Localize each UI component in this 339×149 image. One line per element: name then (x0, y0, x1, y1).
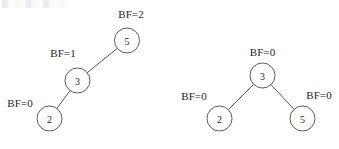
balance-factor-label: BF=0 (250, 47, 276, 58)
node-key-label: 3 (260, 71, 265, 82)
node-key-label: 5 (300, 114, 305, 125)
tree-edge (228, 84, 253, 109)
node-key-label: 2 (47, 114, 52, 125)
tree-edge (57, 91, 70, 109)
balance-factor-label: BF=1 (50, 48, 76, 59)
tree-node: 2 (207, 106, 232, 131)
node-key-label: 2 (217, 114, 222, 125)
tree-edge (87, 48, 117, 72)
node-key-label: 3 (75, 76, 80, 87)
tree-node: 5 (115, 28, 140, 53)
tree-node: 3 (250, 63, 275, 88)
node-key-label: 5 (125, 36, 130, 47)
figure-canvas: █░▒░█▒░█▒░▒ 235325 BF=0BF=1BF=2BF=0BF=0B… (0, 0, 339, 149)
balance-factor-label: BF=2 (118, 9, 144, 20)
tree-node: 3 (65, 68, 90, 93)
balance-factor-label: BF=0 (306, 90, 332, 101)
balance-factor-label: BF=0 (181, 91, 207, 102)
nodes-layer: 235325 (37, 28, 315, 131)
tree-node: 5 (290, 106, 315, 131)
tree-node: 2 (37, 106, 62, 131)
tree-edge (271, 85, 294, 110)
balance-factor-label: BF=0 (7, 98, 33, 109)
tree-diagram-svg: 235325 (0, 0, 339, 149)
